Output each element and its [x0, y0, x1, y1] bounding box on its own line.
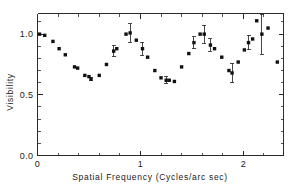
data-point	[180, 65, 183, 68]
data-point	[89, 77, 92, 80]
data-point	[112, 49, 115, 52]
axis-tick-labels: 0120.00.51.0	[20, 29, 246, 168]
data-point	[115, 47, 118, 50]
data-point	[76, 66, 79, 69]
data-point	[159, 76, 162, 79]
data-point	[57, 47, 60, 50]
data-points	[38, 19, 279, 83]
data-point	[227, 69, 230, 72]
data-point	[266, 26, 269, 29]
data-point	[141, 47, 144, 50]
visibility-chart-figure: 0120.00.51.0 Spatial Frequency (Cycles/a…	[0, 0, 300, 187]
x-tick-label: 2	[241, 159, 246, 169]
data-point	[198, 32, 201, 35]
data-point	[153, 69, 156, 72]
data-point	[187, 52, 190, 55]
data-point	[173, 80, 176, 83]
y-tick-label: 1.0	[20, 29, 34, 39]
data-point	[83, 74, 86, 77]
data-point	[237, 60, 240, 63]
data-point	[64, 53, 67, 56]
data-point	[135, 39, 138, 42]
y-axis-label: Visibility	[5, 73, 15, 111]
data-point	[73, 65, 76, 68]
x-tick-label: 1	[138, 159, 143, 169]
data-point	[260, 32, 263, 35]
data-point	[168, 79, 171, 82]
data-point	[247, 41, 250, 44]
data-point	[209, 43, 212, 46]
data-point	[98, 74, 101, 77]
plot-axes	[38, 14, 284, 156]
data-point	[213, 47, 216, 50]
data-point	[243, 48, 246, 51]
axis-ticks	[38, 14, 284, 156]
y-tick-label: 0.5	[20, 90, 34, 100]
data-point	[38, 32, 41, 35]
data-point	[251, 37, 254, 40]
x-tick-label: 0	[35, 159, 40, 169]
y-tick-label: 0.0	[20, 151, 34, 161]
data-point	[220, 55, 223, 58]
data-point	[276, 60, 279, 63]
data-point	[192, 41, 195, 44]
data-point	[230, 71, 233, 74]
data-point	[124, 32, 127, 35]
data-point	[164, 79, 167, 82]
visibility-scatter-plot: 0120.00.51.0 Spatial Frequency (Cycles/a…	[0, 0, 300, 187]
data-point	[128, 31, 131, 34]
x-axis-label: Spatial Frequency (Cycles/arc sec)	[72, 172, 228, 182]
data-point	[146, 55, 149, 58]
data-point	[43, 34, 46, 37]
data-point	[105, 63, 108, 66]
data-point	[255, 19, 258, 22]
data-point	[51, 40, 54, 43]
data-point	[203, 32, 206, 35]
